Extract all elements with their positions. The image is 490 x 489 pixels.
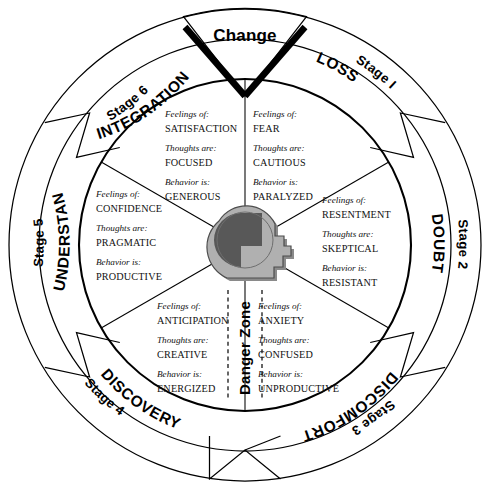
thoughts-label-2: Thoughts are: — [322, 229, 373, 239]
feelings-label-3: Feelings of: — [257, 301, 302, 311]
thoughts-label-1: Thoughts are: — [253, 143, 304, 153]
segment-content-doubt: Feelings of: RESENTMENT Thoughts are: SK… — [321, 195, 391, 288]
behavior-label-5: Behavior is: — [96, 257, 141, 267]
thoughts-value-1: CAUTIOUS — [253, 157, 306, 168]
segment-content-integration: Feelings of: SATISFACTION Thoughts are: … — [164, 109, 238, 202]
thoughts-value-2: SKEPTICAL — [322, 243, 378, 254]
segment-content-loss: Feelings of: FEAR Thoughts are: CAUTIOUS… — [252, 109, 313, 202]
feelings-value-1: FEAR — [253, 123, 280, 134]
feelings-value-2: RESENTMENT — [322, 209, 391, 220]
behavior-value-2: RESISTANT — [322, 277, 378, 288]
thoughts-label-4: Thoughts are: — [157, 335, 208, 345]
change-wheel-svg: Change Stage I Stage 2 Stage 3 Stage — [0, 0, 490, 489]
thoughts-label-6: Thoughts are: — [165, 143, 216, 153]
danger-zone-label: Danger Zone — [236, 301, 253, 395]
stage-number-2: Stage 2 — [455, 219, 471, 270]
thoughts-value-6: FOCUSED — [165, 157, 212, 168]
feelings-label-5: Feelings of: — [95, 189, 140, 199]
feelings-value-5: CONFIDENCE — [96, 203, 162, 214]
head-profile-icon — [207, 206, 294, 281]
segment-content-discovery: Feelings of: ANTICIPATION Thoughts are: … — [156, 301, 229, 394]
behavior-value-4: ENERGIZED — [157, 383, 216, 394]
feelings-label-4: Feelings of: — [156, 301, 201, 311]
thoughts-label-5: Thoughts are: — [96, 223, 147, 233]
behavior-value-1: PARALYZED — [253, 191, 313, 202]
behavior-value-5: PRODUCTIVE — [96, 271, 162, 282]
thoughts-value-4: CREATIVE — [157, 349, 207, 360]
stage-number-5: Stage 5 — [30, 218, 46, 268]
thoughts-label-3: Thoughts are: — [258, 335, 309, 345]
thoughts-value-5: PRAGMATIC — [96, 237, 156, 248]
segment-content-understanding: Feelings of: CONFIDENCE Thoughts are: PR… — [95, 189, 162, 282]
behavior-label-3: Behavior is: — [258, 369, 303, 379]
behavior-value-3: UNPRODUCTIVE — [258, 383, 339, 394]
change-title: Change — [213, 26, 277, 45]
thoughts-value-3: CONFUSED — [258, 349, 313, 360]
segment-content-discomfort: Feelings of: ANXIETY Thoughts are: CONFU… — [257, 301, 339, 394]
feelings-value-3: ANXIETY — [258, 315, 305, 326]
behavior-label-4: Behavior is: — [157, 369, 202, 379]
behavior-label-1: Behavior is: — [253, 177, 298, 187]
feelings-value-6: SATISFACTION — [165, 123, 238, 134]
feelings-label-2: Feelings of: — [321, 195, 366, 205]
behavior-value-6: GENEROUS — [165, 191, 221, 202]
change-cycle-diagram: Change Stage I Stage 2 Stage 3 Stage — [0, 0, 490, 489]
stage-name-loss: LOSS — [314, 48, 362, 85]
feelings-value-4: ANTICIPATION — [157, 315, 229, 326]
behavior-label-6: Behavior is: — [165, 177, 210, 187]
feelings-label-6: Feelings of: — [164, 109, 209, 119]
feelings-label-1: Feelings of: — [252, 109, 297, 119]
stage-name-doubt: DOUBT — [429, 213, 448, 275]
behavior-label-2: Behavior is: — [322, 263, 367, 273]
